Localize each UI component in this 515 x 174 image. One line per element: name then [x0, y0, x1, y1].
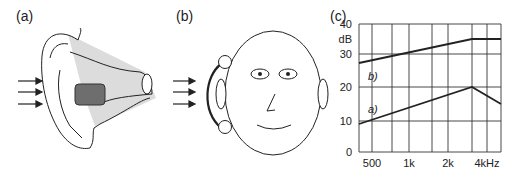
x-tick-500: 500 [363, 157, 381, 169]
y-axis-label: dB [339, 33, 352, 45]
y-tick-10: 10 [340, 115, 352, 127]
x-tick-2k: 2k [442, 157, 454, 169]
earmuff-cup-top [219, 56, 232, 69]
curve-b [359, 39, 501, 63]
face-earmuff-illustration [165, 0, 340, 174]
head-outline [225, 31, 321, 155]
ear-earplug-illustration [0, 0, 170, 174]
sound-arrows-b [173, 78, 195, 107]
y-tick-20: 20 [340, 81, 352, 93]
attenuation-chart: 40 dB 30 20 10 0 500 1k 2k 4kHz b) a) [330, 0, 515, 174]
left-ear [216, 79, 226, 109]
right-ear [318, 79, 328, 109]
panel-c: (c) 40 dB 30 20 10 0 [330, 0, 515, 174]
sound-arrows-a [18, 78, 42, 107]
eardrum [142, 74, 152, 94]
y-tick-40: 40 [340, 18, 352, 30]
chart-grid [359, 24, 501, 152]
y-tick-0: 0 [346, 146, 352, 158]
x-tick-1k: 1k [403, 157, 415, 169]
curve-a-label: a) [368, 103, 378, 115]
earplug [75, 84, 105, 105]
earmuff-cup-bottom [219, 121, 232, 134]
x-tick-4khz: 4kHz [474, 157, 499, 169]
panel-a: (a) [0, 0, 170, 174]
y-tick-30: 30 [340, 48, 352, 60]
left-pupil [258, 72, 262, 76]
right-pupil [286, 72, 290, 76]
panel-b: (b) [165, 0, 340, 174]
curve-a [359, 87, 501, 124]
x-axis-ticks: 500 1k 2k 4kHz [363, 157, 500, 169]
curve-b-label: b) [368, 70, 378, 82]
y-axis-ticks: 40 dB 30 20 10 0 [339, 18, 352, 158]
